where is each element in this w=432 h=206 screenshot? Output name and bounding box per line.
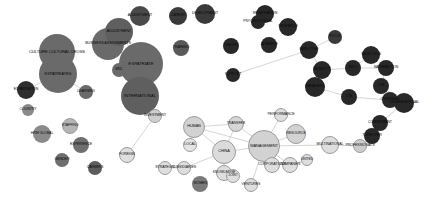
graph-node-multinational[interactable] [321,136,339,154]
graph-node-strategic[interactable] [158,161,172,175]
graph-node-mnc2[interactable] [345,60,361,76]
graph-node-support[interactable] [226,68,240,82]
graph-node-selection[interactable] [362,46,380,64]
graph-node-united[interactable] [301,154,313,166]
graph-node-china[interactable] [212,140,236,164]
graph-node-learning[interactable] [79,85,93,99]
graph-node-companies[interactable] [282,157,298,173]
graph-node-gender[interactable] [55,153,69,167]
graph-node-experience[interactable] [73,137,89,153]
graph-node-resource[interactable] [286,124,306,144]
graph-node-research[interactable] [279,18,297,36]
graph-node-joint[interactable] [226,169,240,183]
graph-node-local[interactable] [183,138,197,152]
graph-node-mnc[interactable] [112,63,126,77]
graph-node-psychological[interactable] [251,15,265,29]
graph-node-employee[interactable] [300,41,318,59]
graph-node-transfer[interactable] [228,116,244,132]
graph-node-subsidiaries[interactable] [177,161,191,175]
graph-node-expatriation[interactable] [17,81,35,99]
graph-node-women[interactable] [192,176,208,192]
graph-node-career[interactable] [169,7,187,25]
graph-node-managers[interactable] [305,77,325,97]
graph-node-satisfaction[interactable] [378,60,394,76]
graph-node-theory[interactable] [223,38,239,54]
graph-node-performance[interactable] [274,108,288,122]
graph-node-expatriates[interactable] [39,55,77,93]
graph-edge [233,50,309,75]
graph-node-turnover[interactable] [364,128,380,144]
graph-node-focus[interactable] [328,30,342,44]
graph-node-country[interactable] [22,104,34,116]
graph-node-job[interactable] [341,89,357,105]
graph-node-human[interactable] [183,116,205,138]
graph-node-investment[interactable] [148,109,162,123]
graph-node-staffing[interactable] [62,118,78,134]
graph-node-adjustment-left[interactable] [105,18,133,46]
graph-node-adjustment-top[interactable] [130,6,150,26]
graph-node-careers[interactable] [88,161,102,175]
graph-node-foreign[interactable] [119,147,135,163]
graph-node-training[interactable] [173,40,189,56]
graph-node-ventures[interactable] [244,178,258,192]
graph-node-japanese[interactable] [261,37,277,53]
graph-node-corporations[interactable] [264,157,280,173]
graph-node-development[interactable] [195,4,215,24]
graph-node-hrm-global[interactable] [33,125,51,143]
graph-node-organizational[interactable] [394,93,414,113]
network-graph: EXPATRIATIONCOUNTRYHRM GLOBALGENDERSTAFF… [0,0,432,206]
